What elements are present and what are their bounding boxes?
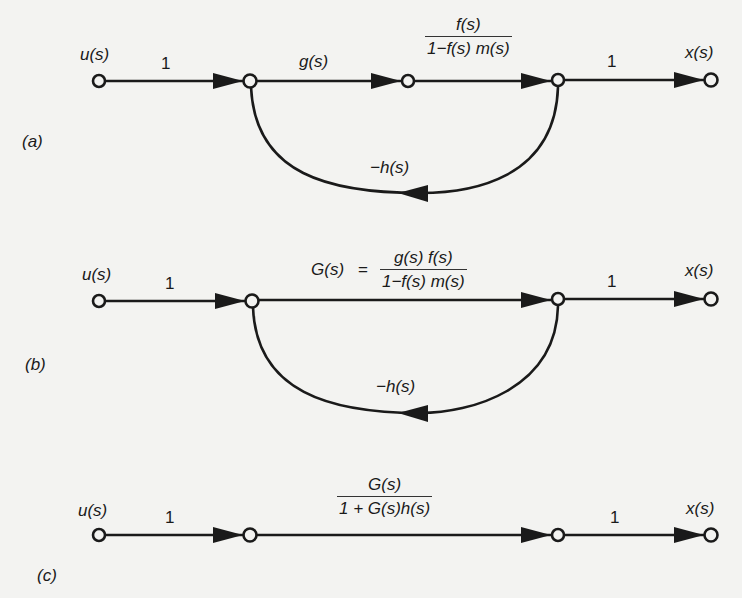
gain-denominator: 1 + G(s)h(s) (337, 497, 432, 517)
node-c-input (93, 529, 105, 541)
node-b-input (93, 295, 105, 307)
gain-numerator: f(s) (454, 16, 483, 36)
gain-denominator: 1−f(s) m(s) (425, 37, 512, 57)
node-a-2 (402, 75, 414, 87)
gain-label-b-u-n1: 1 (165, 275, 174, 292)
equals-sign: = (358, 261, 368, 278)
gain-label-a-u-n1: 1 (161, 55, 170, 72)
node-a-input (93, 75, 105, 87)
panel-label-c: (c) (37, 567, 57, 584)
gain-equation-b-n1-n3: G(s) = g(s) f(s) 1−f(s) m(s) (311, 249, 467, 290)
gain-label-c-u-n1: 1 (165, 509, 174, 526)
node-b-3 (552, 293, 564, 305)
feedback-label-b: −h(s) (376, 378, 415, 395)
node-c-output (705, 529, 718, 542)
input-label-c: u(s) (78, 502, 107, 519)
gain-denominator: 1−f(s) m(s) (380, 270, 467, 290)
panel-label-a: (a) (22, 133, 43, 150)
gain-fraction-c-n1-n3: G(s) 1 + G(s)h(s) (337, 476, 432, 517)
output-label-c: x(s) (686, 500, 714, 517)
gain-fraction-a-n2-n3: f(s) 1−f(s) m(s) (425, 16, 512, 57)
panel-label-b: (b) (25, 356, 46, 373)
gain-fraction-b: g(s) f(s) 1−f(s) m(s) (380, 249, 467, 290)
node-a-3 (552, 74, 564, 86)
feedback-arc-b (253, 306, 558, 413)
input-label-b: u(s) (82, 266, 111, 283)
feedback-label-a: −h(s) (370, 159, 409, 176)
gain-prefix: G(s) (311, 261, 344, 278)
node-a-output (705, 74, 718, 87)
feedback-arc-a (251, 87, 558, 193)
input-label-a: u(s) (80, 46, 109, 63)
gain-label-a-n3-x: 1 (607, 53, 616, 70)
node-b-1 (246, 295, 259, 308)
diagram-a (93, 74, 718, 203)
node-a-1 (244, 75, 257, 88)
gain-label-c-n3-x: 1 (610, 509, 619, 526)
node-b-output (705, 293, 718, 306)
node-c-3 (552, 529, 564, 541)
feedback-arrow-b (398, 405, 428, 422)
gain-label-a-n1-n2: g(s) (299, 53, 328, 70)
gain-numerator: G(s) (366, 476, 403, 496)
output-label-b: x(s) (685, 262, 713, 279)
diagram-b (93, 293, 718, 423)
gain-label-b-n3-x: 1 (607, 273, 616, 290)
feedback-arrow-a (398, 185, 428, 202)
output-label-a: x(s) (685, 44, 713, 61)
diagram-c (93, 529, 718, 542)
node-c-1 (244, 529, 257, 542)
gain-numerator: g(s) f(s) (392, 249, 455, 269)
